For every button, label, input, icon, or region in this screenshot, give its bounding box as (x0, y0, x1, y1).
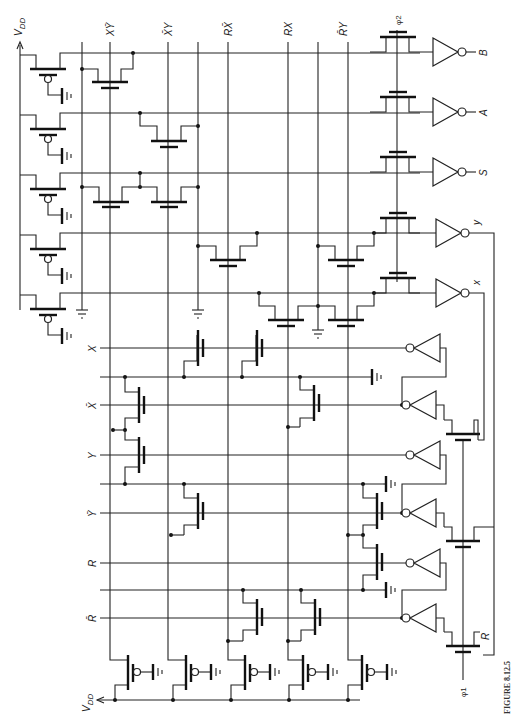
svg-text:VDD: VDD (13, 18, 27, 36)
vertical-lines (76, 42, 348, 650)
output-stage-S: S (370, 152, 489, 186)
phi2-label: φ2 (394, 15, 403, 25)
output-label-b: B (478, 49, 489, 56)
vdd-rail-top: VDD (13, 18, 27, 310)
input-label-x-bar: X̄ (86, 402, 98, 410)
label-r-x: RX (283, 22, 294, 36)
precharge-pmos-top (20, 53, 420, 344)
input-inverters (400, 334, 446, 632)
precharge-pmos-bottom (110, 650, 396, 702)
label-x-bar-y: X̄Y (162, 21, 174, 37)
circuit-schematic: VDD XȲ X̄Y (0, 0, 514, 714)
phi2-column: φ2 (394, 15, 403, 282)
latch-input-label-r: R (480, 633, 491, 640)
output-label-s: S (478, 169, 489, 176)
output-label-x: x (471, 279, 482, 286)
input-label-x: X (87, 345, 98, 353)
input-labels: X X̄ Y Ȳ R R̄ (86, 345, 98, 622)
output-stage-B: B (370, 32, 489, 66)
svg-text:VDD: VDD (81, 694, 95, 712)
phi1-label: φ1 (459, 687, 468, 697)
output-label-a: A (478, 109, 489, 117)
label-r-bar-y: R̄Y (337, 21, 349, 36)
product-term-labels: XȲ X̄Y RX̄ RX R̄Y (105, 21, 349, 37)
figure-caption: FIGURE 8.12.5 (503, 661, 512, 714)
vdd-rail-bottom: VDD (81, 650, 396, 712)
output-label-y: y (471, 219, 482, 226)
label-xy-bar: XȲ (105, 21, 116, 37)
input-label-y-bar: Ȳ (87, 509, 98, 517)
label-r-x-bar: RX̄ (222, 22, 234, 36)
input-label-y: Y (87, 451, 98, 459)
input-label-r-bar: R̄ (86, 615, 98, 622)
output-stage-A: A (370, 92, 489, 126)
input-label-r: R (87, 560, 98, 567)
